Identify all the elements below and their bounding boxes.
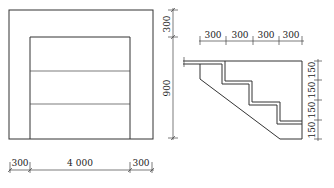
front-elevation [9, 10, 153, 139]
dim-900-vertical: 900 [162, 79, 172, 96]
tread-dim-1: 300 [204, 30, 221, 40]
dim-300-left: 300 [11, 158, 28, 168]
stair-top-dimension: 300 300 300 300 [199, 30, 304, 45]
bottom-dimension: 300 4 000 300 [8, 158, 154, 173]
tread-dim-4: 300 [282, 30, 299, 40]
drawing-canvas: 300 900 300 4 000 300 300 300 300 [0, 0, 334, 188]
riser-dim-3: 150 [307, 101, 317, 118]
dim-300-right: 300 [132, 158, 149, 168]
dim-4000: 4 000 [67, 158, 93, 168]
riser-dim-1: 150 [307, 61, 317, 78]
outer-frame [9, 10, 153, 139]
tread-dim-2: 300 [231, 30, 248, 40]
dim-300-vertical: 300 [162, 15, 172, 32]
stair-right-dimension: 150 150 150 150 [307, 59, 322, 141]
tread-dim-3: 300 [257, 30, 274, 40]
vertical-dimension: 300 900 [162, 8, 178, 140]
riser-dim-4: 150 [307, 121, 317, 138]
door-opening [30, 37, 130, 139]
riser-dim-2: 150 [307, 81, 317, 98]
stair-section [183, 57, 302, 139]
